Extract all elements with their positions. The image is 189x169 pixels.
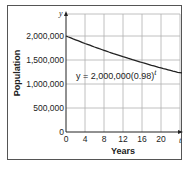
x-axis-arrow-icon [178,130,183,134]
decay-curve [66,36,182,73]
svg-text:1,500,000: 1,500,000 [26,55,64,65]
svg-text:4: 4 [83,134,88,144]
population-chart: 0 500,000 1,000,000 1,500,000 2,000,000 … [0,0,189,169]
equation-exponent: t [154,68,157,77]
y-axis-variable: y [58,9,63,18]
svg-text:1,000,000: 1,000,000 [26,79,64,89]
x-tick-labels: 0 4 8 12 16 20 [64,134,166,144]
equation-base: y = 2,000,000(0.98) [76,71,154,81]
svg-text:16: 16 [137,134,147,144]
svg-text:12: 12 [118,134,128,144]
equation-label: y = 2,000,000(0.98)t [76,68,157,81]
svg-text:8: 8 [102,134,107,144]
x-axis-label: Years [111,146,135,156]
y-axis-arrow-icon [64,11,68,16]
x-axis-variable: t [179,136,182,145]
svg-text:500,000: 500,000 [33,103,64,113]
y-tick-labels: 0 500,000 1,000,000 1,500,000 2,000,000 [26,31,64,137]
y-axis-label: Population [12,50,22,97]
svg-text:0: 0 [64,134,69,144]
svg-text:20: 20 [156,134,166,144]
svg-text:2,000,000: 2,000,000 [26,31,64,41]
